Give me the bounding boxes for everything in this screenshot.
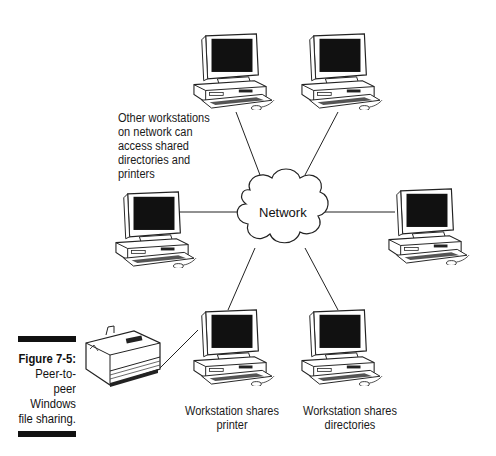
- caption-rule-top: [18, 336, 76, 342]
- figure-caption: Figure 7-5: Peer-to- peer Windows file s…: [8, 352, 76, 427]
- workstation-shares-printer: [188, 306, 276, 386]
- workstation-mid-left: [110, 188, 198, 268]
- printer-workstation-label: Workstation shares printer: [179, 404, 285, 432]
- workstation-top-right: [296, 30, 384, 110]
- computer-icon: [188, 306, 276, 386]
- other-workstations-note: Other workstations on network can access…: [118, 111, 210, 181]
- caption-line: file sharing.: [8, 412, 76, 427]
- link-top-right: [305, 112, 338, 175]
- computer-icon: [188, 30, 276, 110]
- link-bottom-left: [228, 248, 255, 310]
- computer-icon: [110, 188, 198, 268]
- workstation-top-left: [188, 30, 276, 110]
- network-label: Network: [259, 205, 307, 220]
- note-line: access shared: [118, 139, 210, 153]
- caption-line: Peer-to-: [8, 367, 76, 382]
- caption-rule-bottom: [18, 431, 76, 437]
- link-bottom-right: [305, 248, 338, 310]
- caption-line: Windows: [8, 397, 76, 412]
- figure-number: Figure 7-5:: [18, 352, 76, 366]
- label-line: printer: [179, 418, 285, 432]
- computer-icon: [296, 30, 384, 110]
- label-line: Workstation shares: [179, 404, 285, 418]
- printer-icon: [80, 325, 164, 397]
- directory-workstation-label: Workstation shares directories: [297, 404, 403, 432]
- link-top-left: [236, 112, 260, 175]
- workstation-mid-right: [383, 185, 471, 265]
- note-line: printers: [118, 167, 210, 181]
- computer-icon: [383, 185, 471, 265]
- computer-icon: [296, 306, 384, 386]
- note-line: on network can: [118, 125, 210, 139]
- workstation-shares-directories: [296, 306, 384, 386]
- label-line: directories: [297, 418, 403, 432]
- caption-line: peer: [8, 382, 76, 397]
- label-line: Workstation shares: [297, 404, 403, 418]
- note-line: directories and: [118, 153, 210, 167]
- note-line: Other workstations: [118, 111, 210, 125]
